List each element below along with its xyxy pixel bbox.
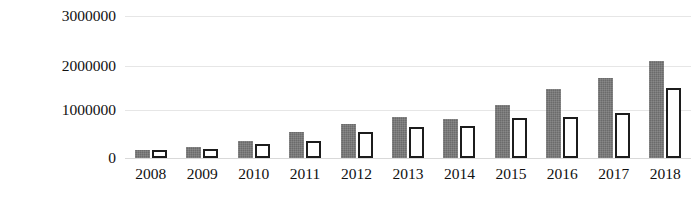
- bar-group-2018: [640, 0, 691, 158]
- x-tick-label-2014: 2014: [434, 160, 485, 190]
- x-tick-label-2012: 2012: [331, 160, 382, 190]
- bar-2012-series-1: [341, 124, 356, 158]
- bar-group-2012: [331, 0, 382, 158]
- bar-2018-series-2: [666, 88, 681, 158]
- x-tick-label-2008: 2008: [125, 160, 176, 190]
- x-tick-label-2010: 2010: [228, 160, 279, 190]
- x-axis: 2008200920102011201220132014201520162017…: [125, 160, 691, 190]
- bar-2009-series-1: [186, 147, 201, 158]
- bar-group-2010: [228, 0, 279, 158]
- bar-group-2011: [279, 0, 330, 158]
- bar-2012-series-2: [358, 132, 373, 159]
- y-axis: 3000000 2000000 1000000 0: [0, 0, 116, 207]
- bar-2009-series-2: [203, 149, 218, 158]
- x-tick-label-2017: 2017: [588, 160, 639, 190]
- x-tick-label-2015: 2015: [485, 160, 536, 190]
- x-tick-label-2018: 2018: [640, 160, 691, 190]
- bar-2017-series-2: [615, 113, 630, 158]
- bar-2014-series-2: [460, 126, 475, 158]
- bar-group-2014: [434, 0, 485, 158]
- bar-group-2017: [588, 0, 639, 158]
- y-tick-label-2000000: 2000000: [0, 58, 116, 74]
- x-tick-label-2013: 2013: [382, 160, 433, 190]
- bar-2008-series-1: [135, 150, 150, 158]
- bar-2008-series-2: [152, 150, 167, 158]
- bar-2010-series-1: [238, 141, 253, 159]
- bar-group-2016: [537, 0, 588, 158]
- y-tick-label-0: 0: [0, 150, 116, 166]
- bar-2016-series-2: [563, 117, 578, 158]
- x-tick-label-2011: 2011: [279, 160, 330, 190]
- bar-group-2009: [176, 0, 227, 158]
- bar-2011-series-1: [289, 132, 304, 159]
- bar-2010-series-2: [255, 144, 270, 158]
- bar-group-2015: [485, 0, 536, 158]
- bar-group-2008: [125, 0, 176, 158]
- bar-2014-series-1: [443, 119, 458, 158]
- y-tick-label-3000000: 3000000: [0, 8, 116, 24]
- bar-2015-series-2: [512, 118, 527, 158]
- bar-2016-series-1: [546, 89, 561, 158]
- bar-2017-series-1: [598, 78, 613, 158]
- bar-group-2013: [382, 0, 433, 158]
- x-tick-label-2009: 2009: [176, 160, 227, 190]
- y-tick-label-1000000: 1000000: [0, 102, 116, 118]
- axis-baseline: [125, 158, 691, 159]
- bar-2013-series-1: [392, 117, 407, 158]
- bar-2011-series-2: [306, 141, 321, 159]
- bar-chart: 3000000 2000000 1000000 0 20082009201020…: [0, 0, 699, 207]
- bar-groups: [125, 0, 691, 158]
- bar-2015-series-1: [495, 105, 510, 158]
- bar-2018-series-1: [649, 61, 664, 158]
- bar-2013-series-2: [409, 127, 424, 158]
- x-tick-label-2016: 2016: [537, 160, 588, 190]
